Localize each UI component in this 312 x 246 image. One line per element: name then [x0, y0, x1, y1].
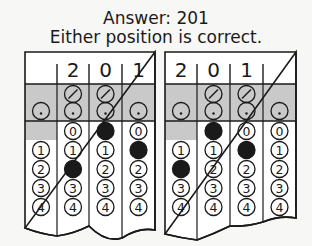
svg-text:1: 1 — [37, 143, 45, 158]
digit-bubble-2[interactable]: 2 — [97, 161, 114, 178]
svg-text:4: 4 — [243, 200, 251, 215]
digit-bubble-0[interactable]: 0 — [130, 123, 147, 140]
digit-bubble-3[interactable]: 3 — [97, 180, 114, 197]
entered-digit: 1 — [132, 58, 145, 82]
svg-text:4: 4 — [69, 200, 77, 215]
svg-text:4: 4 — [276, 200, 284, 215]
digit-bubble-3[interactable]: 3 — [33, 180, 50, 197]
digit-bubble-1[interactable]: 1 — [97, 142, 114, 159]
digit-bubble-3[interactable]: 3 — [173, 180, 190, 197]
svg-text:3: 3 — [177, 181, 185, 196]
digit-bubble-2[interactable]: 2 — [238, 161, 255, 178]
digit-bubble-3[interactable]: 3 — [271, 180, 288, 197]
digit-bubble-0[interactable]: 0 — [238, 123, 255, 140]
digit-bubble-2[interactable]: 2 — [130, 161, 147, 178]
digit-bubble-2[interactable]: 2 — [33, 161, 50, 178]
digit-bubble-4[interactable]: 4 — [97, 199, 114, 216]
digit-bubble-1[interactable] — [238, 142, 255, 159]
svg-text:4: 4 — [102, 200, 110, 215]
svg-text:4: 4 — [210, 200, 218, 215]
entered-digit: 2 — [67, 58, 80, 82]
digit-bubble-0[interactable] — [205, 123, 222, 140]
svg-text:2: 2 — [102, 162, 110, 177]
digit-bubble-3[interactable]: 3 — [130, 180, 147, 197]
svg-text:0: 0 — [135, 124, 143, 139]
svg-text:4: 4 — [135, 200, 143, 215]
digit-bubble-4[interactable]: 4 — [205, 199, 222, 216]
digit-bubble-3[interactable]: 3 — [205, 180, 222, 197]
entered-digit: 1 — [240, 58, 253, 82]
digit-bubble-4[interactable]: 4 — [130, 199, 147, 216]
entered-digit: 0 — [207, 58, 220, 82]
svg-text:2: 2 — [37, 162, 45, 177]
svg-text:2: 2 — [276, 162, 284, 177]
right-grid-column-3: 10234 — [238, 58, 255, 216]
svg-text:0: 0 — [69, 124, 77, 139]
digit-bubble-1[interactable]: 1 — [205, 142, 222, 159]
svg-text:3: 3 — [37, 181, 45, 196]
svg-text:3: 3 — [276, 181, 284, 196]
digit-bubble-4[interactable]: 4 — [271, 199, 288, 216]
digit-bubble-0[interactable]: 0 — [65, 123, 82, 140]
left-grid-column-2: 20134 — [65, 58, 82, 216]
right-grid: 2134012341023401234 — [165, 52, 296, 240]
entered-digit: 2 — [175, 58, 188, 82]
left-grid: 1234201340123410234 — [25, 52, 155, 239]
svg-text:3: 3 — [210, 181, 218, 196]
svg-text:1: 1 — [69, 143, 77, 158]
answer-grids: 12342013401234102342134012341023401234 — [0, 0, 312, 246]
svg-text:3: 3 — [243, 181, 251, 196]
svg-text:3: 3 — [135, 181, 143, 196]
svg-text:1: 1 — [177, 143, 185, 158]
digit-bubble-4[interactable]: 4 — [238, 199, 255, 216]
digit-bubble-1[interactable]: 1 — [33, 142, 50, 159]
entered-digit: 0 — [99, 58, 112, 82]
digit-bubble-0[interactable]: 0 — [271, 123, 288, 140]
left-grid-column-3: 01234 — [97, 58, 114, 216]
svg-text:1: 1 — [276, 143, 284, 158]
digit-bubble-4[interactable]: 4 — [65, 199, 82, 216]
svg-text:2: 2 — [243, 162, 251, 177]
digit-bubble-3[interactable]: 3 — [65, 180, 82, 197]
right-grid-column-2: 01234 — [205, 58, 222, 216]
svg-text:3: 3 — [102, 181, 110, 196]
svg-text:3: 3 — [69, 181, 77, 196]
svg-text:0: 0 — [276, 124, 284, 139]
svg-text:1: 1 — [102, 143, 110, 158]
digit-bubble-2[interactable] — [173, 161, 190, 178]
digit-bubble-0[interactable] — [97, 123, 114, 140]
svg-text:1: 1 — [210, 143, 218, 158]
digit-bubble-1[interactable]: 1 — [271, 142, 288, 159]
digit-bubble-1[interactable]: 1 — [173, 142, 190, 159]
digit-bubble-3[interactable]: 3 — [238, 180, 255, 197]
digit-bubble-1[interactable] — [130, 142, 147, 159]
digit-bubble-2[interactable]: 2 — [271, 161, 288, 178]
svg-text:2: 2 — [135, 162, 143, 177]
